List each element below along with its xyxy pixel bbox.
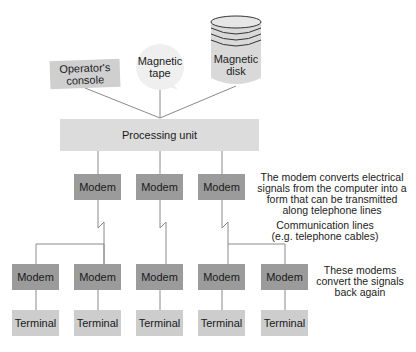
- tape-label-1: Magnetic: [138, 55, 183, 67]
- modem-lower-2: Modem: [74, 264, 121, 290]
- modem-lower-5: Modem: [261, 264, 308, 290]
- modem-upper-2: Modem: [136, 174, 183, 200]
- processing-unit: Processing unit: [60, 119, 259, 151]
- disk-label-2: disk: [211, 65, 261, 77]
- note-convert-back: These modems convert the signals back ag…: [310, 265, 410, 298]
- operators-console: Operator's console: [50, 59, 121, 89]
- terminal-3: Terminal: [136, 310, 183, 336]
- tape-label-2: tape: [149, 67, 170, 79]
- note-line: along telephone lines: [250, 205, 414, 216]
- terminal-1: Terminal: [12, 310, 59, 336]
- terminal-4: Terminal: [198, 310, 245, 336]
- modem-upper-3: Modem: [198, 174, 245, 200]
- modem-upper-1: Modem: [74, 174, 121, 200]
- terminal-5: Terminal: [261, 310, 308, 336]
- modem-lower-4: Modem: [198, 264, 245, 290]
- modem-lower-3: Modem: [136, 264, 183, 290]
- note-communication-lines: Communication lines (e.g. telephone cabl…: [262, 220, 388, 242]
- note-line: (e.g. telephone cables): [262, 231, 388, 242]
- modem-lower-1: Modem: [12, 264, 59, 290]
- note-line: back again: [310, 287, 410, 298]
- console-label-2: console: [66, 73, 104, 86]
- magnetic-tape: Magnetic tape: [136, 44, 184, 90]
- terminal-2: Terminal: [74, 310, 121, 336]
- magnetic-disk-label: Magnetic disk: [211, 53, 261, 77]
- note-modem-converts: The modem converts electrical signals fr…: [250, 172, 414, 216]
- disk-label-1: Magnetic: [211, 53, 261, 65]
